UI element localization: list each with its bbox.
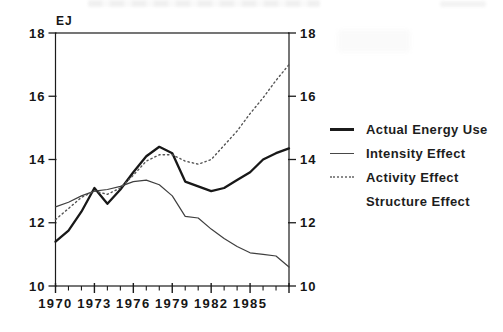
legend-item-activity-effect: Activity Effect (330, 168, 459, 186)
actual-energy-use-line-key (330, 128, 354, 131)
plot-border (56, 33, 290, 286)
legend-label: Intensity Effect (366, 146, 466, 161)
legend-item-actual-energy-use: Actual Energy Use (330, 120, 488, 138)
series-line-actual-energy-use (56, 147, 290, 242)
y-axis-label-right: 12 (300, 215, 316, 230)
y-axis-label-left: 14 (29, 152, 45, 167)
x-axis-label: 1976 (116, 296, 151, 311)
x-axis-label: 1979 (155, 296, 190, 311)
y-axis-label-right: 10 (300, 279, 316, 294)
y-axis-label-right: 14 (300, 152, 316, 167)
legend-label: Activity Effect (366, 170, 459, 185)
x-axis-label: 1982 (194, 296, 229, 311)
x-axis-label: 1985 (233, 296, 268, 311)
legend-item-intensity-effect: Intensity Effect (330, 144, 466, 162)
y-axis-label-left: 12 (29, 215, 45, 230)
x-axis-label: 1970 (38, 296, 73, 311)
y-axis-label-left: 18 (29, 26, 45, 41)
legend-label: Structure Effect (366, 194, 470, 209)
activity-effect-line-key (330, 176, 354, 178)
y-axis-label-left: 16 (29, 89, 45, 104)
intensity-effect-line-key (330, 153, 354, 154)
line-chart: 1010121214141616181819701973197619791982… (0, 0, 503, 332)
legend-label: Actual Energy Use (366, 122, 488, 137)
figure-scan: EJ 1010121214141616181819701973197619791… (0, 0, 503, 332)
y-axis-label-right: 18 (300, 26, 316, 41)
y-axis-label-left: 10 (29, 279, 45, 294)
legend-item-structure-effect: Structure Effect (330, 192, 470, 210)
y-axis-label-right: 16 (300, 89, 316, 104)
x-axis-label: 1973 (77, 296, 112, 311)
